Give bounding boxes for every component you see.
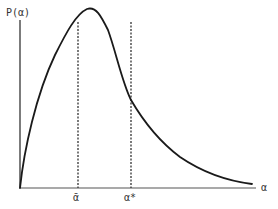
- distribution-curve: [20, 8, 252, 188]
- probability-distribution-diagram: [0, 0, 278, 209]
- x-axis-label: α: [261, 183, 267, 193]
- marker-label-alpha-bar: ᾱ: [73, 193, 79, 203]
- y-axis-label: P(α): [6, 8, 30, 18]
- marker-label-alpha-star: α*: [124, 193, 136, 203]
